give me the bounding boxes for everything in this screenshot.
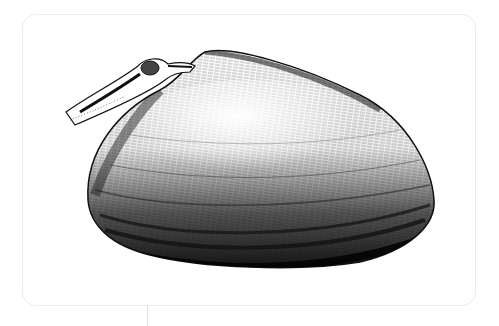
clam-illustration [0, 0, 499, 326]
